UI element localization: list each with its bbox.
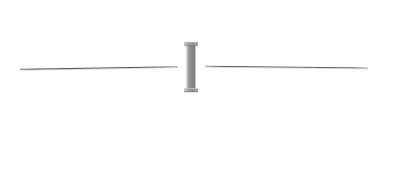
diagram-canvas <box>0 0 394 178</box>
schematic-svg <box>0 0 394 178</box>
center-bar-web[interactable] <box>187 42 196 92</box>
